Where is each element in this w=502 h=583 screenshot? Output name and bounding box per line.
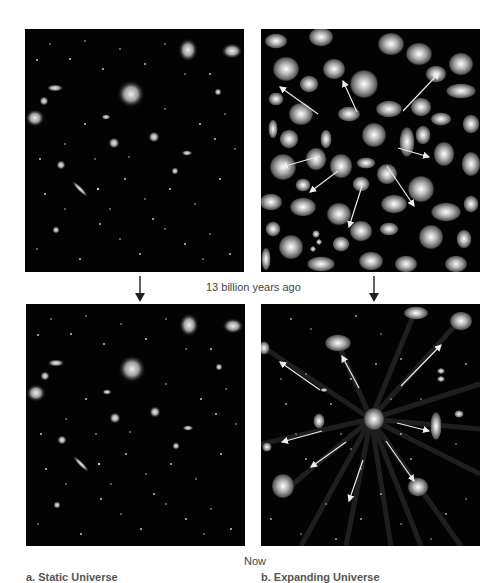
static-universe-then-panel bbox=[25, 29, 244, 272]
down-arrow-icon bbox=[368, 276, 380, 302]
expanding-galaxies-image bbox=[261, 304, 480, 546]
expanding-universe-now-panel bbox=[261, 304, 480, 546]
down-arrow-icon bbox=[134, 276, 146, 302]
caption-static-universe: a. Static Universe bbox=[26, 571, 118, 583]
sparse-galaxy-field-image bbox=[26, 304, 245, 546]
static-universe-now-panel bbox=[26, 304, 245, 546]
expanding-universe-then-panel bbox=[261, 29, 480, 272]
time-label-now: Now bbox=[244, 555, 266, 567]
time-label-then: 13 billion years ago bbox=[206, 281, 301, 293]
sparse-galaxy-field-image bbox=[25, 29, 244, 272]
dense-galaxy-cluster-image bbox=[261, 29, 480, 272]
caption-expanding-universe: b. Expanding Universe bbox=[261, 571, 380, 583]
